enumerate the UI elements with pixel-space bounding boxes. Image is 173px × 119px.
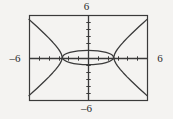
plot-axes [29,15,147,100]
axis-label-y-min: –6 [0,103,173,114]
axis-label-x-max: 6 [149,53,171,64]
graph-figure: 6 –6 6 –6 [0,0,173,119]
axis-label-x-min: –6 [2,53,28,64]
axis-label-y-max: 6 [0,1,173,12]
